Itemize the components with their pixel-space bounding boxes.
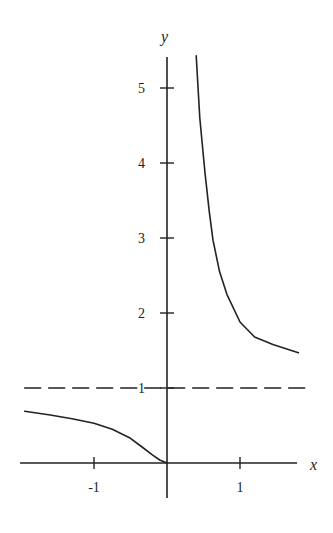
x-tick-label: -1 [88,480,100,495]
y-tick-label: 3 [138,231,145,246]
right-branch-line [196,56,298,353]
y-tick-label: 1 [138,381,145,396]
axes [20,57,297,498]
y-tick-label: 2 [138,306,145,321]
y-tick-label: 5 [138,81,145,96]
chart-canvas: -1112345 x y [0,0,333,533]
ticks-layer: -1112345 [88,81,243,495]
left-branch-line [25,411,167,463]
x-tick-label: 1 [237,480,244,495]
y-tick-label: 4 [138,156,145,171]
y-axis-label: y [159,28,169,46]
x-axis-label: x [309,456,317,473]
